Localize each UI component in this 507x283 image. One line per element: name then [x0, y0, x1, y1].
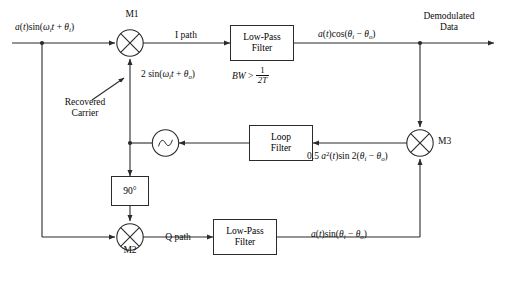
demodulated-data-label: Demodulated Data — [423, 11, 474, 33]
lpf-top-line1: Low-Pass — [243, 32, 280, 43]
lpf-bottom-line1: Low-Pass — [226, 226, 263, 237]
junction-i-output-tap — [418, 41, 422, 45]
i-output-expression: a(t)cos(θi − θo) — [318, 29, 376, 41]
loop-filter-line2: Filter — [271, 143, 292, 154]
junction-input-tap — [40, 41, 44, 45]
loop-filter[interactable]: Loop Filter — [249, 125, 313, 161]
phase-shifter-label: 90° — [123, 186, 136, 197]
input-signal-label: a(t)sin(ωit + θi) — [15, 22, 74, 34]
mixer-m1-label: M1 — [125, 9, 138, 20]
q-path-label: Q path — [165, 232, 191, 243]
recovered-carrier-line1: Recovered — [65, 97, 106, 107]
block-diagram-canvas: Low-Pass Filter Low-Pass Filter Loop Fil… — [0, 0, 507, 283]
phase-shifter-90[interactable]: 90° — [111, 176, 149, 206]
demodulated-line2: Data — [440, 22, 458, 32]
demodulated-line1: Demodulated — [423, 11, 474, 21]
mixer-m2-label: M2 — [123, 245, 136, 256]
bandwidth-note: BW > 1 2T — [232, 66, 269, 85]
loop-filter-line1: Loop — [271, 132, 292, 143]
recovered-carrier-expression: 2 sin(ωit + θo) — [141, 69, 195, 81]
junction-carrier-split — [128, 141, 132, 145]
bw-denominator: 2T — [256, 76, 269, 85]
recovered-carrier-line2: Carrier — [72, 108, 99, 118]
low-pass-filter-top[interactable]: Low-Pass Filter — [230, 25, 294, 61]
lpf-bottom-line2: Filter — [226, 237, 263, 248]
q-output-expression: a(t)sin(θi − θo) — [311, 229, 367, 241]
recovered-carrier-label: Recovered Carrier — [65, 97, 106, 119]
mixer-m3-label: M3 — [438, 136, 451, 147]
vco-sine-glyph — [159, 140, 173, 147]
i-path-label: I path — [175, 30, 197, 41]
m3-output-expression: 0.5 a2(t)sin 2(θi − θo) — [307, 150, 388, 163]
low-pass-filter-bottom[interactable]: Low-Pass Filter — [213, 219, 277, 255]
lpf-top-line2: Filter — [243, 43, 280, 54]
